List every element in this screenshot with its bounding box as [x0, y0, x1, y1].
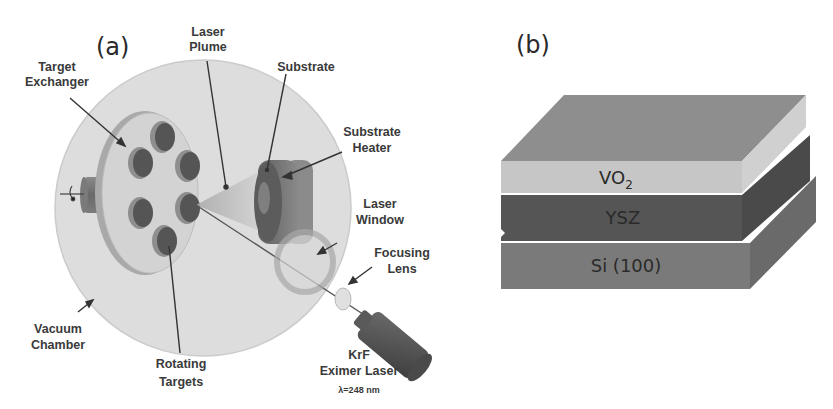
- laser-window: [277, 232, 333, 292]
- panel-a-pld-schematic: (a) LaserPlume TargetExchanger Substrate…: [0, 0, 480, 409]
- panel-b-layer-stack: (b) Si (100) YSZ VO2: [480, 0, 833, 409]
- label-laser-plume: LaserPlume: [189, 25, 227, 54]
- panel-a-letter: (a): [96, 33, 129, 61]
- label-laser-window: LaserWindow: [356, 197, 404, 227]
- panel-b-letter: (b): [516, 31, 550, 59]
- label-vacuum-chamber: VacuumChamber: [31, 322, 85, 352]
- svg-text:Si (100): Si (100): [591, 255, 662, 276]
- svg-text:YSZ: YSZ: [605, 207, 641, 228]
- label-target-exchanger: TargetExchanger: [25, 60, 89, 89]
- focusing-lens: [335, 288, 351, 310]
- label-wavelength: λ=248 nm: [338, 385, 379, 395]
- label-focusing-lens: FocusingLens: [374, 246, 430, 276]
- layer-vo2: VO2: [501, 95, 806, 193]
- label-substrate: Substrate: [277, 60, 335, 74]
- target-exchanger-disk: [95, 111, 198, 275]
- label-rotating-targets: RotatingTargets: [156, 357, 207, 389]
- label-substrate-heater: SubstrateHeater: [343, 125, 401, 155]
